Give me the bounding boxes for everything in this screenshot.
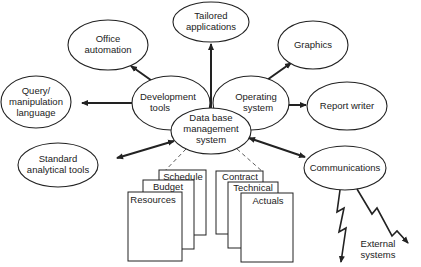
document-label: Resources xyxy=(130,194,176,205)
arrow-to-graphics xyxy=(267,63,291,80)
node-label: system xyxy=(196,134,226,145)
document-label: Budget xyxy=(153,181,183,192)
document-label: Actuals xyxy=(252,195,283,206)
arrow-dbms-comms xyxy=(249,138,305,157)
external-systems-label: External systems xyxy=(361,238,396,260)
document-label: Contract xyxy=(222,171,258,182)
node-label: Standard xyxy=(39,153,78,164)
node-standard-analytical-tools: Standard analytical tools xyxy=(18,143,98,187)
lightning-bolt-icon xyxy=(337,190,346,262)
node-label: Operating xyxy=(235,91,277,102)
svg-text:External: External xyxy=(361,238,396,249)
node-report-writer: Report writer xyxy=(307,82,387,130)
document-stack-right: Contract Technical Actuals xyxy=(216,171,293,262)
lightning-bolt-icon xyxy=(357,189,408,243)
node-label: management xyxy=(183,123,239,134)
node-label: automation xyxy=(84,44,131,55)
node-tailored-applications: Tailored applications xyxy=(173,2,249,42)
node-query-manipulation-language: Query/ manipulation language xyxy=(1,76,71,128)
node-label: Report writer xyxy=(320,100,374,111)
node-label: manipulation xyxy=(9,96,63,107)
svg-text:systems: systems xyxy=(361,249,396,260)
node-label: applications xyxy=(186,21,236,32)
node-label: analytical tools xyxy=(27,164,90,175)
node-label: Office xyxy=(96,33,121,44)
arrow-analytical-dbms xyxy=(117,141,174,158)
node-label: Graphics xyxy=(294,39,332,50)
node-graphics: Graphics xyxy=(278,21,348,69)
node-label: Communications xyxy=(310,162,381,173)
node-label: tools xyxy=(150,102,170,113)
node-communications: Communications xyxy=(304,146,386,190)
document-label: Technical xyxy=(233,182,273,193)
node-dbms-center: Data base management system xyxy=(171,108,251,154)
node-label: Development xyxy=(140,91,196,102)
dbms-diagram: Tailored applications Office automation … xyxy=(0,0,421,267)
node-label: Tailored xyxy=(194,10,227,21)
node-label: Query/ xyxy=(22,85,51,96)
dashed-link-right xyxy=(237,149,263,172)
node-label: Data base xyxy=(189,112,232,123)
node-office-automation: Office automation xyxy=(68,20,148,70)
node-label: system xyxy=(243,102,273,113)
node-label: language xyxy=(16,107,55,118)
document-stack-left: Schedule Budget Resources xyxy=(128,170,206,261)
